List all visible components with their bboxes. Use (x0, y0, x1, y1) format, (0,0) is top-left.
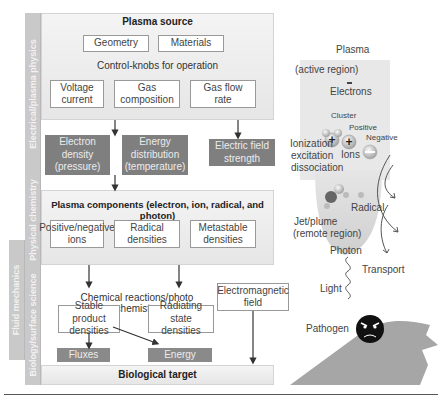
electrons-label: Electrons (330, 86, 372, 97)
svg-text:+: + (345, 135, 352, 149)
jet-plume-label: Jet/plume (294, 216, 337, 227)
negative-label: Negative (366, 133, 398, 142)
negative-ion-icon (363, 145, 377, 159)
excitation-label: excitation (291, 150, 333, 161)
electron-minus-icon (347, 82, 352, 84)
pathogen-label: Pathogen (306, 323, 349, 334)
radical-label: Radical (351, 202, 384, 213)
active-region-label: (active region) (295, 64, 358, 75)
positive-label: Positive (349, 123, 377, 132)
bottom-divider (4, 394, 438, 395)
light-label: Light (320, 283, 342, 294)
photon-label: Photon (330, 245, 362, 256)
ions-label: Ions (341, 149, 360, 160)
light-wave-icon (346, 257, 351, 299)
pathogen-icon (356, 315, 384, 343)
positive-ion-icon: + (342, 135, 356, 149)
remote-region-label: (remote region) (293, 228, 361, 239)
transport-label: Transport (362, 264, 404, 275)
cluster-label: Cluster (331, 111, 356, 120)
dissociation-label: dissociation (291, 162, 343, 173)
plasma-label: Plasma (336, 44, 369, 55)
ionization-label: Ionization (290, 138, 333, 149)
